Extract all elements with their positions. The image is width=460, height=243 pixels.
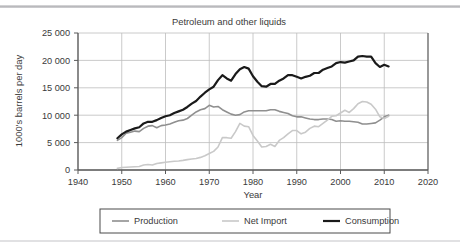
x-axis-label: Year	[244, 189, 263, 200]
legend-label-net-import[interactable]: Net Import	[244, 216, 287, 226]
x-tick-label: 2010	[374, 177, 394, 187]
x-tick-label: 1990	[287, 177, 307, 187]
y-tick-label: 20 000	[42, 56, 70, 66]
y-tick-label: 10 000	[42, 111, 70, 121]
y-axis-label: 1000's barrels per day	[13, 54, 24, 147]
line-chart: Petroleum and other liquids 1000's barre…	[0, 0, 460, 243]
x-axis-ticks: 194019501960197019801990200020102020	[68, 170, 438, 187]
scan-artifact-top-rule	[0, 5, 460, 8]
x-tick-label: 1970	[199, 177, 219, 187]
x-tick-label: 1940	[68, 177, 88, 187]
y-tick-label: 25 000	[42, 28, 70, 38]
chart-figure: Petroleum and other liquids 1000's barre…	[0, 0, 460, 243]
y-tick-label: 5 000	[47, 138, 70, 148]
x-tick-label: 1950	[112, 177, 132, 187]
y-tick-label: 0	[65, 165, 70, 175]
scan-artifact-bottom-rule	[0, 240, 460, 242]
x-tick-label: 2000	[330, 177, 350, 187]
x-tick-label: 1960	[155, 177, 175, 187]
chart-title: Petroleum and other liquids	[172, 16, 286, 27]
y-axis-ticks: 05 00010 00015 00020 00025 000	[42, 28, 78, 175]
grid-lines	[78, 33, 428, 170]
x-tick-label: 1980	[243, 177, 263, 187]
y-tick-label: 15 000	[42, 83, 70, 93]
legend-label-consumption[interactable]: Consumption	[345, 216, 399, 226]
x-tick-label: 2020	[418, 177, 438, 187]
legend-label-production[interactable]: Production	[134, 216, 178, 226]
legend-entries: ProductionNet ImportConsumption	[112, 216, 399, 226]
